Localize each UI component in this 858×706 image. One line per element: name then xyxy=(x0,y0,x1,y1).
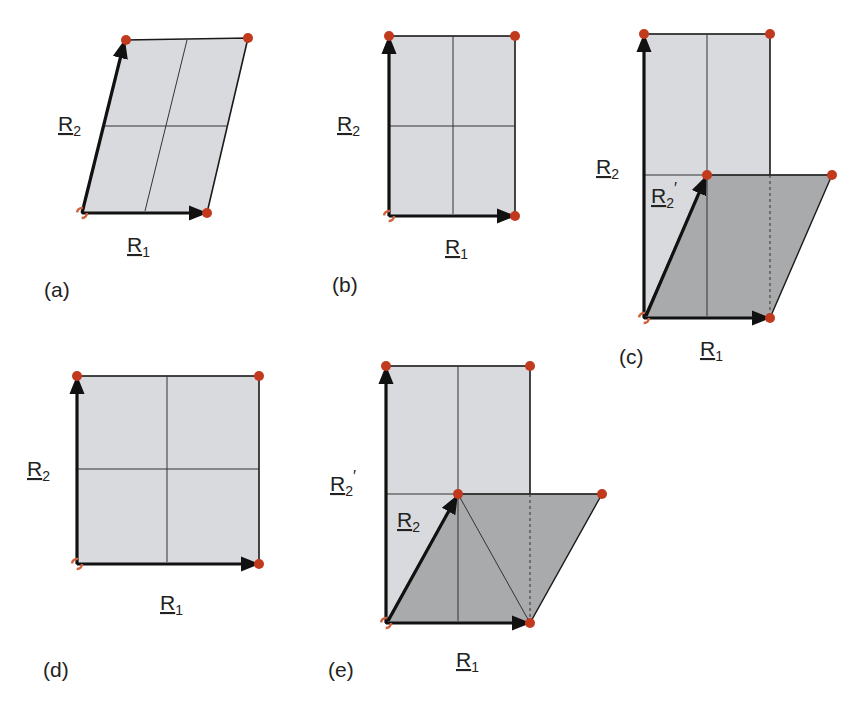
lattice-point xyxy=(639,29,649,39)
lattice-point xyxy=(254,371,264,381)
caption-e: (e) xyxy=(328,658,354,681)
lattice-point xyxy=(765,29,775,39)
lattice-point xyxy=(381,361,391,371)
lattice-point xyxy=(254,559,264,569)
label-r1: R1 xyxy=(700,337,723,364)
panel-b: R2 R1 (b) xyxy=(332,31,520,296)
label-r2-prime: R2′ xyxy=(651,180,677,211)
label-r2: R2 xyxy=(596,155,619,182)
lattice-point xyxy=(827,170,837,180)
label-r2-prime: R2′ xyxy=(330,468,356,499)
lattice-point xyxy=(384,31,394,41)
caption-a: (a) xyxy=(44,278,70,301)
caption-d: (d) xyxy=(43,658,69,681)
label-r1: R1 xyxy=(127,233,150,260)
label-r1: R1 xyxy=(445,235,468,262)
lattice-point xyxy=(525,361,535,371)
panel-c: R2 R2′ R1 (c) xyxy=(596,29,837,368)
lattice-point xyxy=(202,208,212,218)
lattice-point xyxy=(121,35,131,45)
lattice-point xyxy=(243,33,253,43)
lattice-point xyxy=(510,211,520,221)
lattice-point xyxy=(453,489,463,499)
label-r1: R1 xyxy=(456,648,479,675)
label-r2: R2 xyxy=(58,112,81,139)
square-unit-cell xyxy=(77,376,259,564)
lattice-point xyxy=(702,170,712,180)
caption-c: (c) xyxy=(619,345,644,368)
label-r1: R1 xyxy=(160,591,183,618)
caption-b: (b) xyxy=(332,273,358,296)
lattice-point xyxy=(510,31,520,41)
label-r2: R2 xyxy=(337,112,360,139)
panel-a: R2 R1 (a) xyxy=(44,33,253,301)
lattice-point xyxy=(72,371,82,381)
panel-d: R2 R1 (d) xyxy=(27,371,264,681)
panel-e: R2′ R2 R1 (e) xyxy=(328,361,607,681)
label-r2: R2 xyxy=(27,457,50,484)
lattice-point xyxy=(525,618,535,628)
lattice-point xyxy=(765,313,775,323)
lattice-unit-cell-figure: R2 R1 (a) R2 R1 (b) R2 R2′ R1 xyxy=(0,0,858,706)
lattice-point xyxy=(597,489,607,499)
